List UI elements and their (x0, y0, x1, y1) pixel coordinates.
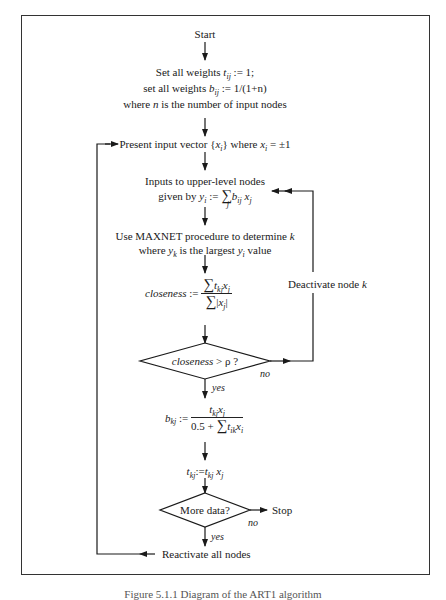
present-input-node: Present input vector {xi} where xi = ±1 (119, 138, 290, 151)
init-weights-line3: where n is the number of input nodes (123, 98, 286, 111)
start-node: Start (195, 28, 216, 41)
decision-closeness-no-label: no (260, 367, 270, 380)
update-t-formula: tkj:=tkj xj (187, 465, 224, 478)
decision-more-data-no-label: no (248, 516, 258, 529)
decision-closeness-yes-label: yes (212, 381, 225, 394)
update-b-formula: bkj := tkjxj 0.5 + ∑tikxi (165, 403, 243, 433)
init-weights-line1: Set all weights tij := 1; (156, 66, 254, 79)
decision-more-data-label: More data? (180, 504, 230, 517)
decision-closeness-label: closeness > ρ ? (172, 355, 238, 368)
inputs-upper-level-line1: Inputs to upper-level nodes (145, 175, 265, 188)
maxnet-line2: where yk is the largest yi value (139, 244, 272, 257)
init-weights-line2: set all weights bij := 1/(1+n) (143, 82, 267, 95)
deactivate-node-label: Deactivate node k (288, 276, 367, 293)
closeness-formula: closeness := ∑tkjxj ∑|xj| (145, 278, 232, 309)
figure-caption: Figure 5.1.1 Diagram of the ART1 algorit… (124, 588, 321, 600)
inputs-upper-level-line2: given by yi := ∑j bij xj (158, 189, 251, 205)
reactivate-node: Reactivate all nodes (162, 548, 251, 561)
stop-node: Stop (272, 504, 292, 517)
maxnet-line1: Use MAXNET procedure to determine k (115, 230, 294, 243)
decision-more-data-yes-label: yes (211, 530, 224, 543)
